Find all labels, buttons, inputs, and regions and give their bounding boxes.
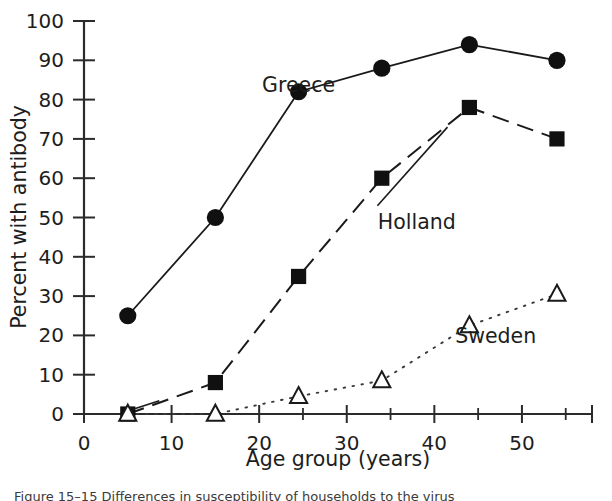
y-ticklabel-60: 60 — [39, 166, 64, 190]
antibody-by-age-line-chart: 0102030405060708090100 01020304050 Greec… — [0, 0, 612, 470]
y-ticklabel-70: 70 — [39, 127, 64, 151]
datapoint-sweden-3 — [373, 371, 390, 387]
y-ticklabel-40: 40 — [39, 245, 64, 269]
series-lines — [128, 45, 557, 414]
y-axis-tick-labels: 0102030405060708090100 — [26, 9, 64, 426]
series-markers — [119, 36, 565, 422]
holland-leader-line — [377, 127, 447, 206]
series-line-holland — [128, 107, 557, 414]
series-label-greece: Greece — [262, 73, 335, 97]
series-label-sweden: Sweden — [455, 324, 536, 348]
datapoint-greece-5 — [548, 52, 565, 69]
datapoint-holland-3 — [374, 171, 389, 186]
y-ticklabel-20: 20 — [39, 323, 64, 347]
x-ticklabel-10: 10 — [159, 431, 184, 455]
datapoint-sweden-1 — [207, 405, 224, 421]
datapoint-greece-1 — [207, 209, 224, 226]
y-axis-title: Percent with antibody — [7, 105, 31, 329]
datapoint-sweden-5 — [548, 285, 565, 301]
y-ticklabel-10: 10 — [39, 363, 64, 387]
datapoint-holland-4 — [462, 100, 477, 115]
y-ticklabel-0: 0 — [51, 402, 64, 426]
y-ticklabel-90: 90 — [39, 48, 64, 72]
annotation-connectors — [133, 127, 447, 409]
datapoint-holland-5 — [549, 131, 564, 146]
y-ticklabel-30: 30 — [39, 284, 64, 308]
datapoint-greece-3 — [373, 60, 390, 77]
series-label-holland: Holland — [378, 210, 456, 234]
datapoint-greece-4 — [461, 36, 478, 53]
y-ticklabel-50: 50 — [39, 206, 64, 230]
datapoint-sweden-2 — [290, 387, 307, 403]
series-annotations: GreeceHollandSweden — [262, 73, 536, 349]
x-ticklabel-0: 0 — [78, 431, 91, 455]
figure-container: 0102030405060708090100 01020304050 Greec… — [0, 0, 612, 501]
datapoint-greece-0 — [119, 307, 136, 324]
figure-caption: Figure 15–15 Differences in susceptibili… — [14, 489, 604, 501]
y-ticklabel-80: 80 — [39, 88, 64, 112]
series-line-sweden — [128, 294, 557, 414]
series-line-greece — [128, 45, 557, 316]
datapoint-holland-2 — [291, 269, 306, 284]
x-axis-title: Age group (years) — [246, 447, 431, 470]
x-ticklabel-50: 50 — [509, 431, 534, 455]
y-ticklabel-100: 100 — [26, 9, 64, 33]
datapoint-holland-1 — [208, 375, 223, 390]
